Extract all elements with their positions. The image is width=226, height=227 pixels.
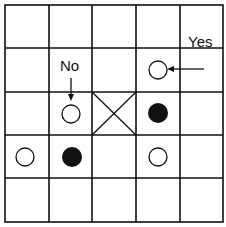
arrow-down-icon xyxy=(68,78,74,101)
white-stone xyxy=(62,105,80,123)
arrow-left-icon xyxy=(167,66,204,72)
crossed-cell-x-mark xyxy=(92,92,136,135)
black-stone xyxy=(148,103,168,123)
black-stone xyxy=(62,147,82,167)
white-stone xyxy=(16,148,34,166)
white-stone xyxy=(149,148,167,166)
label-yes: Yes xyxy=(188,34,212,49)
white-stone xyxy=(149,61,167,79)
label-no: No xyxy=(60,58,79,73)
